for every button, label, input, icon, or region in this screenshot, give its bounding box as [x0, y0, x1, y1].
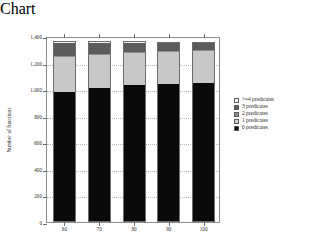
bar-segment: [157, 84, 180, 222]
y-axis-tick-label: 800: [34, 115, 42, 120]
y-axis-tick: [43, 224, 47, 225]
bar-segment: [88, 88, 111, 222]
legend: >=4 predicates3 predicates2 predicates1 …: [234, 97, 274, 132]
y-axis-tick-label: 1,200: [30, 62, 42, 67]
legend-item[interactable]: 3 predicates: [234, 104, 274, 110]
x-axis-tick-label: 80: [131, 227, 136, 232]
x-axis-tick: [99, 34, 100, 38]
bar-segment: [123, 85, 146, 222]
legend-label: 0 predicates: [242, 125, 268, 130]
bar-segment: [192, 51, 215, 83]
bar-segment: [88, 55, 111, 88]
legend-swatch-icon: [234, 119, 239, 124]
legend-swatch-icon: [234, 105, 239, 110]
bar-segment: [192, 83, 215, 222]
legend-label: >=4 predicates: [242, 97, 274, 102]
bar-segment: [123, 53, 146, 86]
x-axis-tick: [169, 34, 170, 38]
legend-label: 1 predicates: [242, 118, 268, 123]
x-axis-tick: [64, 34, 65, 38]
bar-segment: [53, 92, 76, 222]
y-axis-tick-label: 200: [34, 195, 42, 200]
x-axis-tick-label: 60: [62, 227, 67, 232]
bar-segment: [53, 43, 76, 56]
bar[interactable]: [123, 41, 146, 222]
legend-item[interactable]: 0 predicates: [234, 125, 274, 131]
figure: Number of functions 02004006008001,0001,…: [0, 18, 311, 239]
y-axis-tick: [43, 91, 47, 92]
y-axis-tick-label: 400: [34, 168, 42, 173]
bar-segment: [192, 43, 215, 50]
y-axis-tick-label: 1,000: [30, 89, 42, 94]
x-axis-tick: [204, 34, 205, 38]
legend-swatch-icon: [234, 112, 239, 117]
bar[interactable]: [157, 42, 180, 222]
x-axis-tick-label: 70: [97, 227, 102, 232]
bar-segment: [123, 43, 146, 52]
legend-swatch-icon: [234, 98, 239, 103]
y-axis-tick: [43, 118, 47, 119]
legend-item[interactable]: >=4 predicates: [234, 97, 274, 103]
x-axis-tick-label: 100: [200, 227, 208, 232]
y-axis-tick-label: 1,400: [30, 35, 42, 40]
legend-label: 3 predicates: [242, 104, 268, 109]
bar[interactable]: [192, 42, 215, 222]
bar-segment: [157, 43, 180, 51]
x-axis-tick: [134, 34, 135, 38]
y-axis-tick: [43, 197, 47, 198]
x-axis-tick-label: 90: [166, 227, 171, 232]
bar-segment: [157, 52, 180, 84]
bar[interactable]: [53, 41, 76, 222]
y-axis-tick: [43, 65, 47, 66]
bar-segment: [88, 43, 111, 54]
legend-swatch-icon: [234, 126, 239, 131]
y-axis-tick-label: 0: [39, 221, 42, 226]
y-axis-tick: [43, 171, 47, 172]
y-axis-tick: [43, 38, 47, 39]
y-axis-title: Number of functions: [6, 107, 12, 152]
legend-label: 2 predicates: [242, 111, 268, 116]
bar[interactable]: [88, 41, 111, 222]
legend-item[interactable]: 1 predicates: [234, 118, 274, 124]
plot-area: 02004006008001,0001,2001,40060708090100: [46, 37, 220, 223]
y-axis-tick: [43, 144, 47, 145]
legend-item[interactable]: 2 predicates: [234, 111, 274, 117]
y-axis-tick-label: 600: [34, 142, 42, 147]
bar-segment: [53, 57, 76, 92]
